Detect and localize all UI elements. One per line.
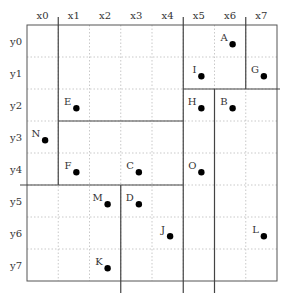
point-label: K [95,256,103,267]
point-dot-icon [198,169,204,175]
point-dot-icon [229,41,235,47]
point-dot-icon [73,105,79,111]
column-label: x0 [37,10,49,21]
point-label: H [188,96,197,107]
point-dot-icon [261,233,267,239]
dotted-grid-lines [27,25,277,281]
point-dot-icon [73,169,79,175]
point-label: F [64,160,71,171]
point-dot-icon [261,73,267,79]
point-label: D [126,192,134,203]
row-label: y0 [9,36,22,47]
column-label: x3 [130,10,142,21]
row-labels: y0y1y2y3y4y5y6y7 [9,36,22,271]
row-label: y7 [9,260,22,271]
data-point-a: A [219,32,235,47]
point-label: G [251,64,259,75]
data-point-b: B [220,96,236,111]
point-label: O [188,160,196,171]
column-label: x6 [224,10,236,21]
data-point-l: L [252,224,267,239]
point-label: C [126,160,134,171]
point-dot-icon [229,105,235,111]
data-point-c: C [126,160,142,175]
point-dot-icon [136,169,142,175]
column-label: x4 [162,10,174,21]
data-point-m: M [92,192,110,207]
column-label: x7 [255,10,267,21]
point-label: B [220,96,227,107]
data-point-d: D [126,192,142,207]
column-label: x2 [99,10,111,21]
data-point-g: G [251,64,267,79]
point-label: N [31,128,40,139]
point-dot-icon [198,73,204,79]
row-label: y1 [9,68,22,79]
point-dot-icon [104,201,110,207]
grid-partition-diagram: x0x1x2x3x4x5x6x7 y0y1y2y3y4y5y6y7 ABCDEF… [0,0,289,300]
row-label: y2 [9,100,22,111]
point-label: J [160,224,165,235]
point-dot-icon [136,201,142,207]
row-label: y6 [9,228,22,239]
row-label: y3 [9,132,22,143]
column-label: x5 [193,10,205,21]
point-dot-icon [104,265,110,271]
data-point-n: N [31,128,48,143]
data-point-o: O [188,160,204,175]
column-labels: x0x1x2x3x4x5x6x7 [37,10,268,21]
data-point-i: I [192,64,204,79]
point-label: I [192,64,196,75]
point-label: M [92,192,102,203]
data-point-e: E [64,96,80,111]
row-label: y4 [9,164,22,175]
column-label: x1 [68,10,80,21]
data-point-f: F [64,160,79,175]
data-point-k: K [95,256,111,271]
row-label: y5 [9,196,22,207]
point-label: A [219,32,228,43]
point-dot-icon [167,233,173,239]
data-point-h: H [188,96,205,111]
point-dot-icon [42,137,48,143]
point-dot-icon [198,105,204,111]
data-points: ABCDEFGHIJKLMNO [31,32,267,271]
point-label: E [64,96,71,107]
partition-lines [20,17,280,293]
data-point-j: J [160,224,173,239]
point-label: L [252,224,259,235]
